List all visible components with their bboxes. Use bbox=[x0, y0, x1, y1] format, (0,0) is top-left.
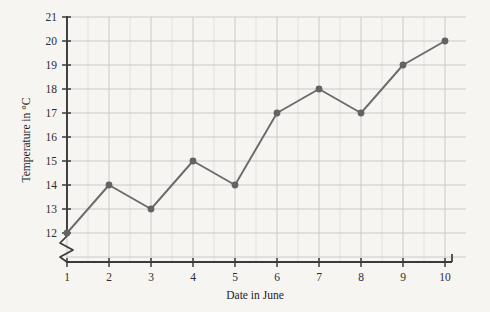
x-axis-title: Date in June bbox=[226, 289, 283, 301]
y-tick-label: 21 bbox=[46, 11, 58, 23]
y-tick-label: 13 bbox=[46, 203, 58, 215]
horizontal-gridlines bbox=[67, 17, 466, 257]
y-tick-label: 20 bbox=[46, 35, 58, 47]
y-axis-tick-labels: 21 20 19 18 17 16 15 14 13 12 bbox=[46, 11, 58, 239]
x-tick-label: 1 bbox=[64, 271, 70, 283]
data-point bbox=[358, 110, 365, 117]
y-tick-label: 14 bbox=[46, 179, 58, 191]
y-axis-title: Temperature in °C bbox=[20, 97, 33, 182]
x-tick-label: 4 bbox=[190, 271, 196, 283]
y-tick-label: 12 bbox=[46, 227, 58, 239]
x-tick-label: 10 bbox=[439, 271, 451, 283]
x-tick-label: 9 bbox=[400, 271, 406, 283]
data-point bbox=[316, 86, 323, 93]
data-point bbox=[64, 230, 71, 237]
x-tick-label: 2 bbox=[106, 271, 112, 283]
data-point bbox=[232, 182, 239, 189]
chart-canvas: 21 20 19 18 17 16 15 14 13 12 1 2 3 4 5 … bbox=[0, 0, 490, 312]
y-tick-label: 19 bbox=[46, 59, 58, 71]
y-tick-label: 17 bbox=[46, 107, 58, 119]
data-point bbox=[148, 206, 155, 213]
data-point bbox=[442, 38, 449, 45]
temperature-line-chart: 21 20 19 18 17 16 15 14 13 12 1 2 3 4 5 … bbox=[0, 0, 490, 312]
y-tick-label: 18 bbox=[46, 83, 58, 95]
data-point bbox=[190, 158, 197, 165]
data-point bbox=[106, 182, 113, 189]
minor-vertical-gridlines bbox=[88, 17, 424, 262]
y-tick-label: 15 bbox=[46, 155, 58, 167]
data-point bbox=[274, 110, 281, 117]
x-tick-label: 6 bbox=[274, 271, 280, 283]
x-tick-label: 3 bbox=[148, 271, 154, 283]
x-tick-label: 8 bbox=[358, 271, 364, 283]
x-tick-label: 7 bbox=[316, 271, 322, 283]
x-tick-label: 5 bbox=[232, 271, 238, 283]
x-axis-tick-labels: 1 2 3 4 5 6 7 8 9 10 bbox=[64, 271, 451, 283]
y-tick-label: 16 bbox=[46, 131, 58, 143]
data-point bbox=[400, 62, 407, 69]
